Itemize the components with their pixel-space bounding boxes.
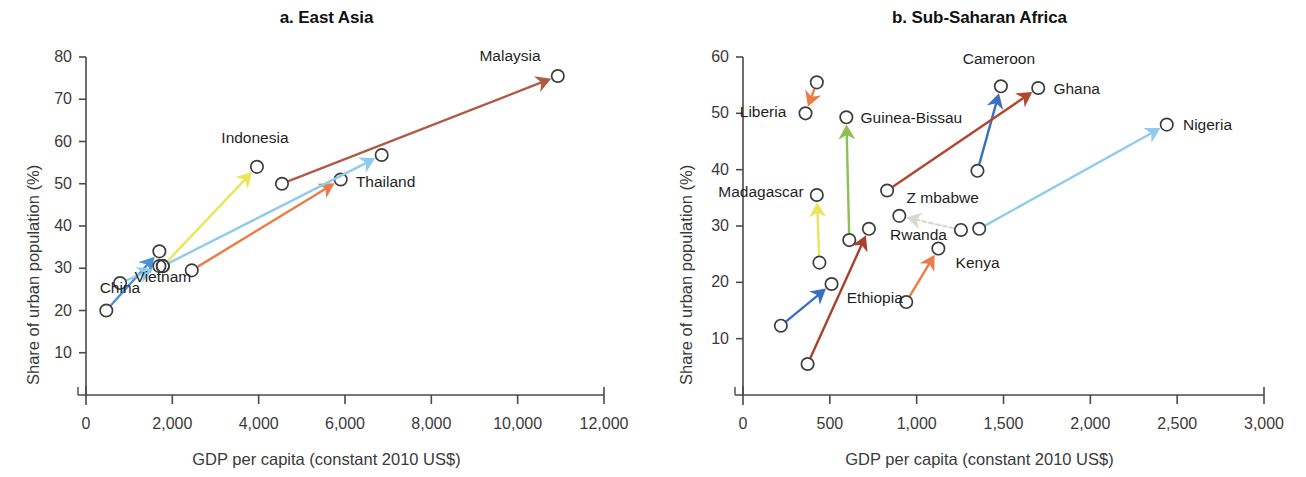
x-tick-label: 500 bbox=[816, 415, 843, 433]
panel-b-plot bbox=[653, 0, 1306, 477]
y-tick-label: 70 bbox=[28, 90, 72, 108]
x-tick-label: 4,000 bbox=[239, 415, 279, 433]
panel-sub-saharan-africa: b. Sub-Saharan Africa Share of urban pop… bbox=[653, 0, 1306, 477]
x-tick-label: 0 bbox=[82, 415, 91, 433]
point-label-liberia: Liberia bbox=[740, 103, 787, 121]
point-label-zimbabwe: Z mbabwe bbox=[907, 189, 979, 207]
series-ethiopia bbox=[775, 278, 838, 332]
point-label-kenya: Kenya bbox=[956, 254, 1000, 272]
point-label-madagascar: Madagascar bbox=[718, 183, 803, 201]
point-label-vietnam: Vietnam bbox=[135, 268, 192, 286]
y-tick-label: 20 bbox=[685, 273, 729, 291]
y-tick-label: 40 bbox=[685, 161, 729, 179]
y-tick-label: 50 bbox=[685, 104, 729, 122]
point-label-cameroon: Cameroon bbox=[963, 50, 1035, 68]
point-label-malaysia: Malaysia bbox=[479, 47, 540, 65]
series-liberia bbox=[799, 76, 823, 119]
x-tick-label: 2,000 bbox=[152, 415, 192, 433]
x-tick-label: 2,500 bbox=[1157, 415, 1197, 433]
y-tick-label: 20 bbox=[28, 302, 72, 320]
point-label-china: China bbox=[100, 279, 141, 297]
series-china-upper-track bbox=[157, 149, 388, 273]
series-malaysia bbox=[276, 70, 564, 190]
series-nigeria bbox=[973, 118, 1173, 235]
y-tick-label: 30 bbox=[685, 217, 729, 235]
y-tick-label: 10 bbox=[685, 330, 729, 348]
panel-east-asia: a. East Asia Share of urban population (… bbox=[0, 0, 653, 477]
x-tick-label: 6,000 bbox=[325, 415, 365, 433]
y-tick-label: 60 bbox=[685, 48, 729, 66]
figure-root: a. East Asia Share of urban population (… bbox=[0, 0, 1306, 477]
y-tick-label: 60 bbox=[28, 133, 72, 151]
series-guinea-bissau bbox=[838, 111, 855, 246]
point-label-thailand: Thailand bbox=[356, 173, 415, 191]
y-tick-label: 50 bbox=[28, 175, 72, 193]
point-label-ethiopia: Ethiopia bbox=[847, 289, 903, 307]
y-tick-label: 80 bbox=[28, 48, 72, 66]
x-tick-label: 1,000 bbox=[897, 415, 937, 433]
point-label-indonesia: Indonesia bbox=[221, 129, 288, 147]
x-tick-label: 8,000 bbox=[411, 415, 451, 433]
y-tick-label: 10 bbox=[28, 344, 72, 362]
y-tick-label: 30 bbox=[28, 259, 72, 277]
y-tick-label: 40 bbox=[28, 217, 72, 235]
series-kenya bbox=[900, 242, 945, 308]
panel-a-plot bbox=[0, 0, 653, 477]
x-tick-label: 12,000 bbox=[580, 415, 629, 433]
point-label-guinea-bissau: Guinea-Bissau bbox=[861, 109, 963, 127]
x-tick-label: 2,000 bbox=[1070, 415, 1110, 433]
point-label-rwanda: Rwanda bbox=[890, 226, 947, 244]
x-tick-label: 3,000 bbox=[1244, 415, 1284, 433]
series-thailand bbox=[186, 173, 347, 276]
x-tick-label: 0 bbox=[739, 415, 748, 433]
series-madagascar bbox=[809, 189, 826, 269]
point-label-ghana: Ghana bbox=[1053, 80, 1100, 98]
point-label-nigeria: Nigeria bbox=[1183, 116, 1232, 134]
x-tick-label: 1,500 bbox=[983, 415, 1023, 433]
x-tick-label: 10,000 bbox=[493, 415, 542, 433]
series-ghana bbox=[881, 82, 1044, 197]
series-indonesia bbox=[157, 161, 264, 273]
